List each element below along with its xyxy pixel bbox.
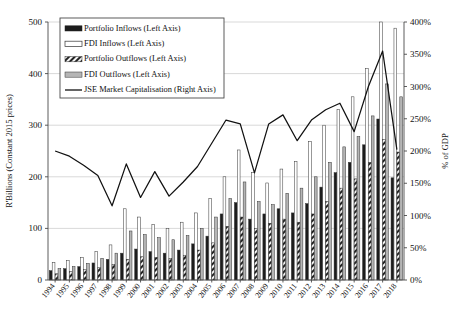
bar-open-white-2017 [380, 22, 383, 280]
bar-hatched-2013 [326, 202, 329, 280]
bar-solid-gray-2014 [343, 147, 346, 280]
bar-open-white-1996 [81, 257, 84, 280]
bar-solid-gray-1999 [129, 231, 132, 280]
bar-open-white-2006 [223, 177, 226, 280]
y-tick-right: 400% [410, 17, 432, 27]
bar-open-white-2010 [280, 169, 283, 280]
bar-solid-black-2010 [277, 209, 280, 280]
bar-open-white-1999 [123, 209, 126, 280]
bar-solid-gray-2011 [300, 188, 303, 280]
bar-solid-black-2002 [163, 253, 166, 280]
bar-solid-gray-2004 [200, 228, 203, 280]
y-tick-right: 150% [410, 178, 432, 188]
y-tick-left: 200 [29, 172, 43, 182]
x-tick-2015: 2015 [339, 282, 356, 300]
bar-solid-black-2006 [220, 214, 223, 280]
bar-open-white-2000 [138, 217, 141, 280]
bar-hatched-2003 [183, 255, 186, 280]
bar-hatched-2008 [254, 228, 257, 280]
bar-open-white-2007 [237, 150, 240, 280]
x-tick-2010: 2010 [268, 282, 285, 300]
bar-open-white-2011 [294, 161, 297, 280]
bar-solid-gray-1996 [87, 263, 90, 280]
bar-solid-black-2003 [177, 250, 180, 280]
chart-container: 0100200300400500 0%50%100%150%200%250%30… [0, 0, 459, 326]
bar-open-white-2014 [337, 110, 340, 280]
bar-open-white-2001 [152, 224, 155, 280]
bar-hatched-2018 [397, 152, 400, 280]
bar-open-white-1994 [52, 262, 55, 280]
bar-solid-gray-2007 [243, 182, 246, 280]
bar-hatched-2000 [141, 257, 144, 280]
bar-hatched-2012 [311, 214, 314, 280]
legend[interactable]: Portfolio Inflows (Left Axis)FDI Inflows… [60, 18, 224, 98]
bar-open-white-2009 [266, 183, 269, 280]
bar-solid-black-1998 [106, 259, 109, 280]
legend-label: Portfolio Outflows (Left Axis) [84, 54, 186, 63]
bar-solid-gray-2008 [257, 202, 260, 280]
bar-solid-gray-2018 [400, 97, 403, 280]
y-axis-left-ticks: 0100200300400500 [29, 17, 49, 285]
y-tick-right: 200% [410, 146, 432, 156]
y-tick-right: 50% [410, 243, 427, 253]
x-tick-1999: 1999 [111, 282, 128, 300]
bar-solid-black-1996 [78, 267, 81, 280]
bar-solid-black-1997 [92, 263, 95, 280]
legend-label: FDI Inflows (Left Axis) [84, 39, 164, 48]
y-tick-left: 500 [29, 17, 43, 27]
bar-open-white-2004 [195, 213, 198, 280]
bar-solid-black-2007 [234, 203, 237, 280]
y-axis-right-ticks: 0%50%100%150%200%250%300%350%400% [404, 17, 432, 285]
bar-open-white-2013 [323, 125, 326, 280]
bar-open-white-2005 [209, 198, 212, 280]
x-tick-2004: 2004 [182, 282, 199, 300]
bar-hatched-2014 [340, 188, 343, 280]
bar-open-white-2012 [309, 142, 312, 280]
bar-solid-black-2011 [291, 213, 294, 280]
bar-hatched-2007 [240, 217, 243, 280]
bar-solid-black-2014 [334, 173, 337, 280]
bar-hatched-1997 [98, 268, 101, 280]
x-axis-ticks: 1994199519961997199819992000200120022003… [40, 280, 399, 300]
bar-open-white-1998 [109, 245, 112, 280]
bar-solid-black-1995 [64, 269, 67, 280]
bar-solid-black-2009 [263, 214, 266, 280]
x-tick-2013: 2013 [310, 282, 327, 300]
bar-hatched-2009 [269, 223, 272, 280]
x-tick-2001: 2001 [139, 282, 156, 300]
bar-hatched-2017 [383, 140, 386, 280]
x-tick-2003: 2003 [168, 282, 185, 300]
bar-solid-black-1994 [49, 271, 52, 280]
bar-solid-gray-1994 [58, 269, 61, 280]
bar-hatched-2011 [297, 222, 300, 280]
y-tick-right: 100% [410, 211, 432, 221]
bar-open-white-2002 [166, 228, 169, 280]
bar-open-white-2003 [180, 222, 183, 280]
x-tick-2000: 2000 [125, 282, 142, 300]
bar-solid-gray-2017 [386, 84, 389, 280]
x-tick-2005: 2005 [196, 282, 213, 300]
x-tick-2014: 2014 [325, 282, 342, 300]
bar-solid-gray-1995 [72, 267, 75, 280]
x-tick-2006: 2006 [211, 282, 228, 300]
bar-open-white-2018 [394, 28, 397, 280]
x-tick-1997: 1997 [82, 282, 99, 300]
y-tick-right: 250% [410, 114, 432, 124]
y-axis-left-label: R'Billions (Constant 2015 prices) [4, 94, 14, 208]
legend-item-line[interactable]: JSE Market Capitalisation (Right Axis) [65, 85, 216, 94]
bar-solid-gray-2016 [371, 116, 374, 280]
bar-hatched-1994 [55, 274, 58, 280]
legend-item-hatched[interactable]: Portfolio Outflows (Left Axis) [65, 54, 186, 63]
bar-open-white-2016 [365, 68, 368, 280]
bar-solid-black-2008 [249, 219, 252, 280]
x-tick-1998: 1998 [97, 282, 114, 300]
x-tick-2012: 2012 [296, 282, 313, 300]
bar-open-white-2008 [252, 173, 255, 280]
bar-solid-gray-2005 [215, 217, 218, 280]
bar-solid-black-1999 [120, 253, 123, 280]
bar-solid-gray-2002 [172, 240, 175, 280]
y-tick-right: 0% [410, 275, 423, 285]
y-tick-right: 300% [410, 82, 432, 92]
y-tick-right: 350% [410, 49, 432, 59]
bar-hatched-2006 [226, 226, 229, 280]
